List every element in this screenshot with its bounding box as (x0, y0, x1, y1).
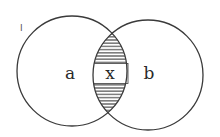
venn-diagram: a x b I (0, 0, 220, 137)
intersection-label: x (105, 63, 115, 83)
venn-svg: a x b I (0, 0, 220, 137)
set-b-label: b (144, 63, 155, 83)
corner-mark: I (20, 23, 23, 33)
set-a-label: a (65, 63, 75, 83)
